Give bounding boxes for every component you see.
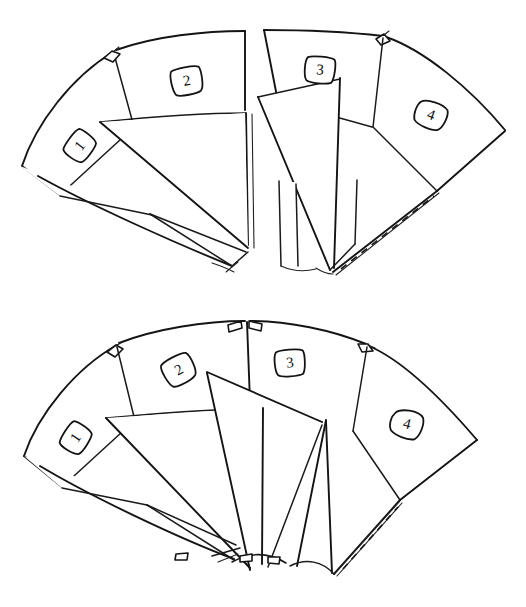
panel-label-3: 3 [304, 56, 336, 85]
panel-label-text: 3 [316, 61, 325, 77]
panel-label-3: 3 [273, 348, 306, 378]
tab-clip-icon [240, 554, 252, 562]
fan-fold-diagram-svg: 1 2 3 4 [0, 0, 526, 607]
centre-flap-spine [262, 408, 263, 564]
diagram-canvas: 1 2 3 4 [0, 0, 526, 607]
panel-label-2: 2 [169, 65, 204, 98]
tab-clip-icon [175, 553, 188, 560]
tab-clip-icon [268, 557, 280, 564]
